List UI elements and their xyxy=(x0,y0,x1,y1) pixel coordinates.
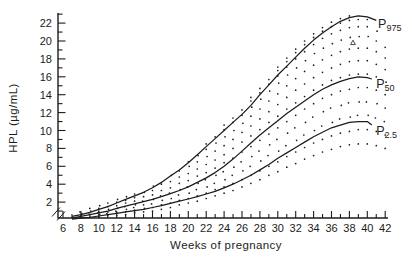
x-tick-label: 8 xyxy=(78,222,84,234)
curve-label: P2.5 xyxy=(376,124,397,140)
x-tick-label: 16 xyxy=(146,222,158,234)
x-tick-label: 18 xyxy=(164,222,176,234)
x-tick-label: 36 xyxy=(325,222,337,234)
x-tick-label: 24 xyxy=(218,222,230,234)
curve-p50: P50 xyxy=(72,77,395,219)
curve-label: P975 xyxy=(378,17,401,33)
x-tick-label: 10 xyxy=(93,222,105,234)
x-tick-label: 26 xyxy=(236,222,248,234)
y-axis-title: HPL (µg/mL) xyxy=(7,83,19,152)
x-tick-label: 22 xyxy=(200,222,212,234)
y-tick-label: 8 xyxy=(46,142,52,154)
x-tick-label: 34 xyxy=(307,222,319,234)
x-tick-label: 38 xyxy=(343,222,355,234)
x-tick-label: 40 xyxy=(361,222,373,234)
axes xyxy=(58,13,388,218)
x-tick-label: 30 xyxy=(272,222,284,234)
scatter-points xyxy=(79,15,387,218)
y-tick-label: 2 xyxy=(46,196,52,208)
x-tick-label: 20 xyxy=(182,222,194,234)
chart-svg: 2468101214161820226810121416182022242628… xyxy=(0,0,412,261)
curve-p975: P975 xyxy=(72,16,401,217)
x-tick-label: 32 xyxy=(290,222,302,234)
x-tick-label: 14 xyxy=(128,222,140,234)
triangle-marker xyxy=(351,40,356,44)
x-tick-label: 6 xyxy=(60,222,66,234)
y-tick-label: 18 xyxy=(40,53,52,65)
y-tick-label: 12 xyxy=(40,107,52,119)
curve-label: P50 xyxy=(376,77,394,93)
y-tick-label: 14 xyxy=(40,89,52,101)
x-tick-label: 42 xyxy=(379,222,391,234)
hpl-percentile-chart: 2468101214161820226810121416182022242628… xyxy=(0,0,412,261)
y-tick-label: 22 xyxy=(40,17,52,29)
y-tick-label: 10 xyxy=(40,125,52,137)
x-axis-title: Weeks of pregnancy xyxy=(170,239,282,251)
y-tick-label: 6 xyxy=(46,160,52,172)
curve-p25: P2.5 xyxy=(72,122,397,220)
y-tick-label: 16 xyxy=(40,71,52,83)
y-axis-ticks: 246810121416182022 xyxy=(40,14,66,211)
y-tick-label: 20 xyxy=(40,35,52,47)
x-tick-label: 12 xyxy=(111,222,123,234)
y-tick-label: 4 xyxy=(46,178,52,190)
x-tick-label: 28 xyxy=(254,222,266,234)
